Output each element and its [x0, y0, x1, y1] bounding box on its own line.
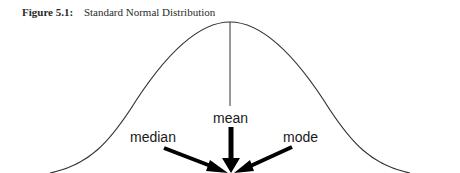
- median-arrow: [164, 148, 228, 173]
- median-label: median: [130, 130, 176, 144]
- mode-arrow: [234, 147, 292, 173]
- mean-label: mean: [213, 111, 248, 125]
- normal-distribution-diagram: [0, 0, 460, 173]
- mode-label: mode: [283, 130, 318, 144]
- mean-arrow: [222, 127, 240, 173]
